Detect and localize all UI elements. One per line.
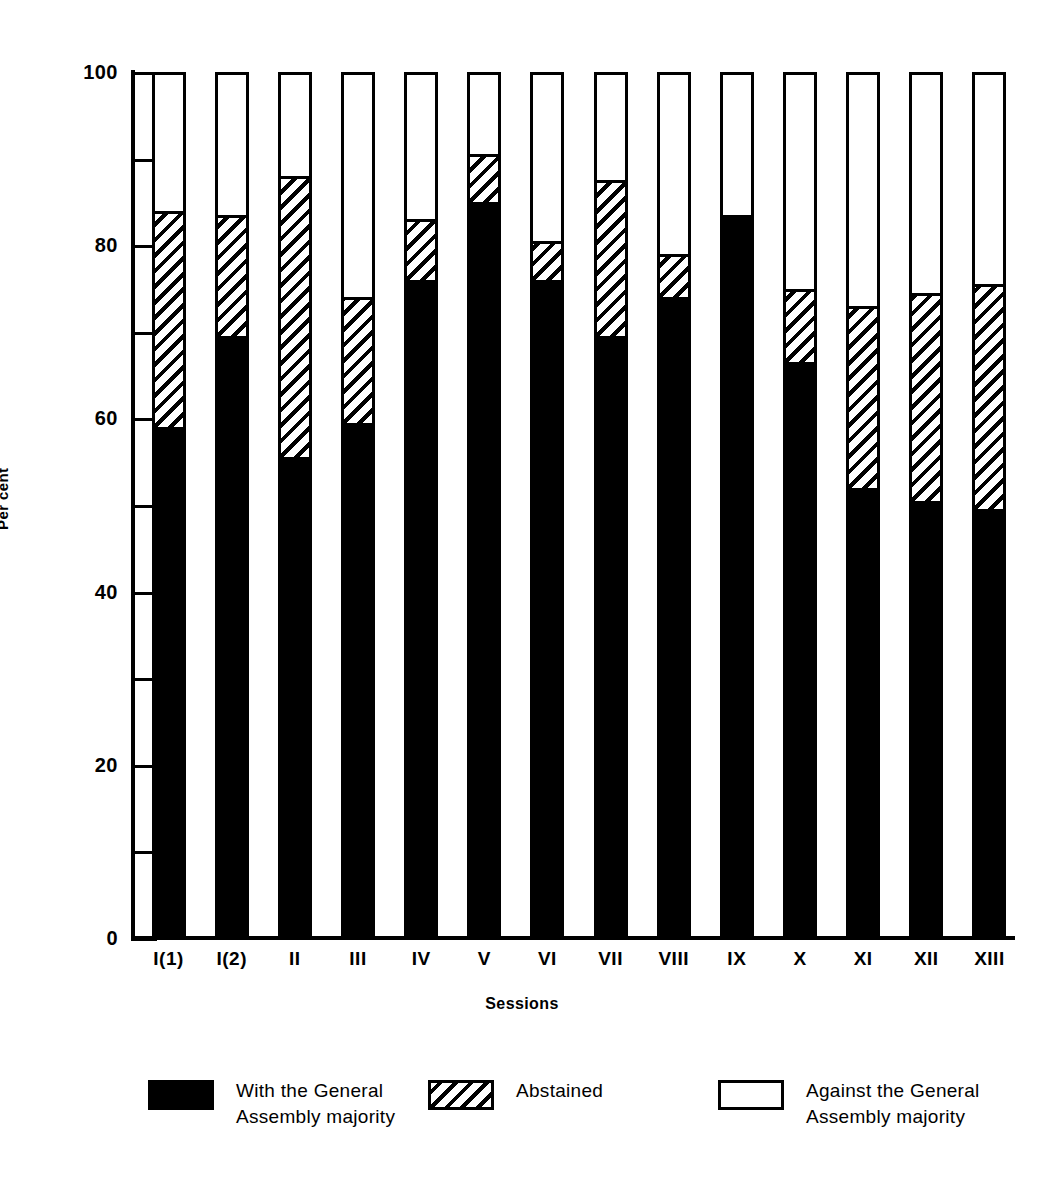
bar-column[interactable] xyxy=(720,72,754,938)
bar-segment-against[interactable] xyxy=(720,72,754,215)
chart-legend: With the General Assembly majorityAbstai… xyxy=(0,1078,1044,1178)
bar-segment-divider xyxy=(404,219,438,222)
bar-top-rule xyxy=(909,72,943,75)
bars-layer xyxy=(131,72,1015,938)
bar-segment-with[interactable] xyxy=(783,362,817,938)
legend-label: With the General Assembly majority xyxy=(236,1078,395,1129)
bar-segment-divider xyxy=(467,154,501,157)
y-axis-tick-label: 40 xyxy=(95,580,118,603)
bar-segment-abstained[interactable] xyxy=(594,180,628,336)
bar-segment-abstained[interactable] xyxy=(846,306,880,488)
bar-segment-against[interactable] xyxy=(594,72,628,180)
bar-segment-divider xyxy=(594,180,628,183)
bar-top-rule xyxy=(594,72,628,75)
bar-segment-against[interactable] xyxy=(341,72,375,297)
legend-against[interactable]: Against the General Assembly majority xyxy=(718,1078,980,1129)
bar-top-rule xyxy=(278,72,312,75)
y-axis-tick-label: 100 xyxy=(83,61,118,84)
bar-top-rule xyxy=(720,72,754,75)
bar-segment-against[interactable] xyxy=(215,72,249,215)
y-axis-title: Per cent xyxy=(0,468,11,530)
bar-segment-abstained[interactable] xyxy=(657,254,691,297)
bar-segment-with[interactable] xyxy=(594,336,628,938)
bar-column[interactable] xyxy=(594,72,628,938)
white-outline-swatch-icon xyxy=(718,1080,784,1110)
bar-segment-against[interactable] xyxy=(909,72,943,293)
diagonal-hatch-swatch-icon xyxy=(428,1080,494,1110)
bar-segment-against[interactable] xyxy=(467,72,501,154)
bar-segment-abstained[interactable] xyxy=(341,297,375,423)
bar-top-rule xyxy=(215,72,249,75)
bar-segment-with[interactable] xyxy=(972,509,1006,938)
bar-segment-divider xyxy=(846,306,880,309)
bar-column[interactable] xyxy=(909,72,943,938)
bar-segment-divider xyxy=(341,297,375,300)
bar-segment-with[interactable] xyxy=(846,488,880,938)
bar-segment-divider xyxy=(278,176,312,179)
chart-canvas: Per cent 020406080100 I(1)I(2)IIIIIIVVVI… xyxy=(0,0,1044,1190)
bar-segment-with[interactable] xyxy=(404,280,438,938)
y-axis-tick-label: 0 xyxy=(106,927,118,950)
legend-with[interactable]: With the General Assembly majority xyxy=(148,1078,395,1129)
bar-top-rule xyxy=(152,72,186,75)
bar-top-rule xyxy=(846,72,880,75)
bar-segment-with[interactable] xyxy=(467,202,501,938)
bar-column[interactable] xyxy=(783,72,817,938)
bar-segment-against[interactable] xyxy=(846,72,880,306)
bar-segment-abstained[interactable] xyxy=(530,241,564,280)
bar-segment-with[interactable] xyxy=(720,215,754,938)
bar-segment-against[interactable] xyxy=(152,72,186,211)
y-axis-tick-label: 60 xyxy=(95,407,118,430)
bar-segment-against[interactable] xyxy=(657,72,691,254)
bar-segment-with[interactable] xyxy=(909,501,943,938)
x-axis-title: Sessions xyxy=(0,995,1044,1013)
bar-column[interactable] xyxy=(972,72,1006,938)
bar-segment-with[interactable] xyxy=(657,297,691,938)
bar-segment-abstained[interactable] xyxy=(972,284,1006,509)
bar-column[interactable] xyxy=(404,72,438,938)
bar-top-rule xyxy=(783,72,817,75)
bar-segment-abstained[interactable] xyxy=(909,293,943,501)
bar-segment-against[interactable] xyxy=(278,72,312,176)
y-axis-tick xyxy=(131,938,157,941)
bar-segment-divider xyxy=(972,284,1006,287)
bar-segment-divider xyxy=(657,254,691,257)
bar-segment-divider xyxy=(215,215,249,218)
bar-segment-with[interactable] xyxy=(215,336,249,938)
bar-top-rule xyxy=(341,72,375,75)
bar-segment-abstained[interactable] xyxy=(467,154,501,202)
bar-segment-with[interactable] xyxy=(530,280,564,938)
bar-segment-divider xyxy=(152,211,186,214)
y-axis-tick-label: 80 xyxy=(95,234,118,257)
bar-segment-against[interactable] xyxy=(404,72,438,219)
bar-segment-abstained[interactable] xyxy=(278,176,312,457)
bar-segment-abstained[interactable] xyxy=(404,219,438,280)
bar-column[interactable] xyxy=(846,72,880,938)
bar-segment-with[interactable] xyxy=(278,457,312,938)
bar-segment-against[interactable] xyxy=(530,72,564,241)
bar-segment-against[interactable] xyxy=(783,72,817,289)
bar-column[interactable] xyxy=(657,72,691,938)
bar-column[interactable] xyxy=(530,72,564,938)
bar-column[interactable] xyxy=(215,72,249,938)
bar-column[interactable] xyxy=(152,72,186,938)
bar-segment-abstained[interactable] xyxy=(215,215,249,336)
bar-segment-divider xyxy=(530,241,564,244)
bar-top-rule xyxy=(530,72,564,75)
bar-top-rule xyxy=(972,72,1006,75)
bar-column[interactable] xyxy=(341,72,375,938)
legend-abstained[interactable]: Abstained xyxy=(428,1078,603,1110)
bar-column[interactable] xyxy=(467,72,501,938)
legend-label: Against the General Assembly majority xyxy=(806,1078,980,1129)
bar-segment-with[interactable] xyxy=(152,427,186,938)
bar-segment-with[interactable] xyxy=(341,423,375,938)
bar-segment-against[interactable] xyxy=(972,72,1006,284)
bar-segment-divider xyxy=(909,293,943,296)
bar-top-rule xyxy=(657,72,691,75)
solid-black-swatch-icon xyxy=(148,1080,214,1110)
bar-segment-abstained[interactable] xyxy=(152,211,186,428)
bar-top-rule xyxy=(404,72,438,75)
bar-column[interactable] xyxy=(278,72,312,938)
bar-segment-abstained[interactable] xyxy=(783,289,817,363)
x-axis-tick-label: XIII xyxy=(944,948,1034,970)
